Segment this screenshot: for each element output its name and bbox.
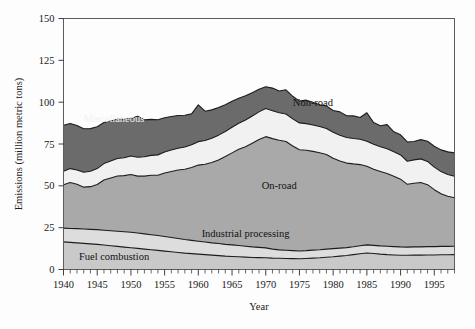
x-tick-label: 1965 bbox=[222, 279, 243, 290]
y-tick-label: 75 bbox=[44, 139, 55, 150]
x-tick-label: 1940 bbox=[53, 279, 74, 290]
x-tick-label: 1960 bbox=[188, 279, 209, 290]
y-tick-label: 100 bbox=[39, 97, 55, 108]
series-label-miscellaneous: Miscellaneous bbox=[84, 113, 145, 124]
figure-container: 0255075100125150 19401945195019551960196… bbox=[0, 0, 475, 329]
series-label-industrial-processing: Industrial processing bbox=[202, 228, 291, 239]
x-axis-title: Year bbox=[249, 301, 269, 312]
x-tick-label: 1980 bbox=[323, 279, 344, 290]
y-tick-label: 0 bbox=[49, 264, 54, 275]
y-tick-label: 150 bbox=[39, 13, 55, 24]
x-tick-label: 1975 bbox=[289, 279, 310, 290]
x-tick-label: 1990 bbox=[390, 279, 411, 290]
y-tick-label: 25 bbox=[44, 222, 55, 233]
x-tick-label: 1955 bbox=[154, 279, 175, 290]
x-tick-label: 1985 bbox=[356, 279, 377, 290]
y-tick-label: 50 bbox=[44, 180, 55, 191]
x-tick-label: 1970 bbox=[255, 279, 276, 290]
series-label-non-road: Non-road bbox=[293, 97, 334, 108]
x-tick-label: 1995 bbox=[424, 279, 445, 290]
y-tick-label: 125 bbox=[39, 55, 55, 66]
emissions-stacked-area-chart: 0255075100125150 19401945195019551960196… bbox=[0, 0, 475, 329]
y-axis-title: Emissions (million metric tons) bbox=[13, 77, 25, 210]
x-tick-label: 1950 bbox=[120, 279, 141, 290]
x-tick-label: 1945 bbox=[87, 279, 108, 290]
series-label-fuel-combustion: Fuel combustion bbox=[79, 251, 150, 262]
series-label-on-road: On-road bbox=[262, 180, 298, 191]
